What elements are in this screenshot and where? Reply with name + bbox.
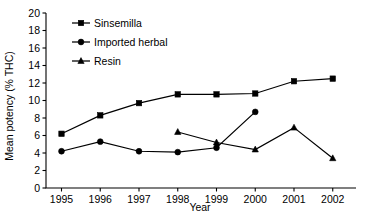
data-point-marker-triangle: [291, 124, 297, 130]
x-axis-tick-label: 1996: [89, 193, 113, 205]
data-point-marker-circle: [136, 148, 142, 154]
line-chart: 02468101214161820 1995199619971998199920…: [0, 0, 367, 215]
data-point-marker-circle: [175, 149, 181, 155]
chart-axes: [43, 13, 357, 192]
legend-item-imported-herbal: Imported herbal: [72, 36, 168, 48]
series-line: [62, 79, 333, 134]
data-point-marker-square: [175, 92, 180, 97]
data-point-marker-circle: [97, 139, 103, 145]
x-axis-tick-label: 1998: [166, 193, 190, 205]
series-resin: [175, 124, 336, 160]
data-point-marker-circle: [59, 148, 65, 154]
y-axis-tick-label: 18: [28, 24, 40, 36]
data-point-marker-square: [78, 20, 83, 25]
data-point-marker-square: [291, 79, 296, 84]
y-axis-tick-label: 4: [34, 147, 40, 159]
y-axis-tick-label: 16: [28, 42, 40, 54]
y-axis-tick-label: 20: [28, 7, 40, 19]
axis-spine: [46, 13, 356, 188]
chart-series-group: [59, 76, 336, 161]
legend-label: Resin: [94, 55, 121, 67]
x-axis-tick-label: 1997: [127, 193, 151, 205]
data-point-marker-square: [253, 91, 258, 96]
data-point-marker-square: [59, 131, 64, 136]
y-axis-tick-labels: 02468101214161820: [28, 7, 40, 194]
data-point-marker-square: [214, 92, 219, 97]
y-axis-tick-label: 12: [28, 77, 40, 89]
data-point-marker-circle: [214, 145, 220, 151]
x-axis-tick-label: 1995: [50, 193, 74, 205]
series-line: [62, 112, 256, 152]
data-point-marker-square: [330, 76, 335, 81]
y-axis-tick-label: 8: [34, 112, 40, 124]
series-imported-herbal: [59, 109, 259, 155]
data-point-marker-square: [136, 100, 141, 105]
legend-label: Sinsemilla: [94, 17, 142, 29]
y-axis-tick-label: 2: [34, 164, 40, 176]
data-point-marker-square: [98, 113, 103, 118]
legend-label: Imported herbal: [94, 36, 168, 48]
chart-legend: SinsemillaImported herbalResin: [72, 17, 168, 67]
chart-container: 02468101214161820 1995199619971998199920…: [0, 0, 367, 215]
x-axis-tick-label: 2001: [282, 193, 306, 205]
y-axis-tick-label: 6: [34, 129, 40, 141]
data-point-marker-circle: [252, 109, 258, 115]
y-axis-tick-label: 14: [28, 59, 40, 71]
y-axis-tick-label: 10: [28, 94, 40, 106]
x-axis-tick-label: 2000: [244, 193, 268, 205]
y-axis-tick-label: 0: [34, 182, 40, 194]
series-line: [178, 128, 333, 159]
x-axis-tick-label: 2002: [321, 193, 345, 205]
data-point-marker-circle: [78, 39, 84, 45]
y-axis-title: Mean potency (% THC): [3, 51, 15, 161]
legend-item-resin: Resin: [72, 55, 121, 67]
x-axis-title: Year: [189, 201, 211, 213]
data-point-marker-triangle: [175, 129, 181, 135]
legend-item-sinsemilla: Sinsemilla: [72, 17, 142, 29]
